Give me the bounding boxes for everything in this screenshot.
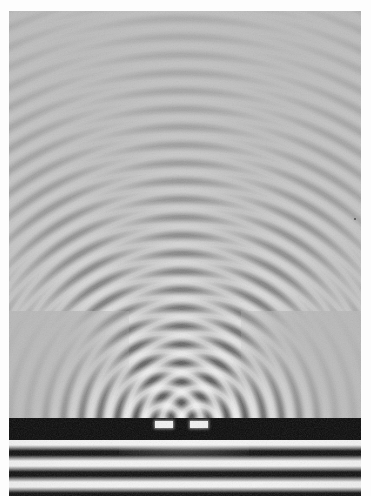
ripple-tank-photograph (9, 11, 361, 496)
incident-plane-waves (9, 440, 361, 496)
slit-right (190, 421, 208, 428)
photograph-frame: Double-slit water wave interference (rip… (0, 0, 371, 496)
slit-barrier (9, 418, 361, 440)
dust-speck (354, 218, 356, 220)
slit-left (155, 421, 173, 428)
circular-wavefronts-right-slit (9, 11, 361, 438)
